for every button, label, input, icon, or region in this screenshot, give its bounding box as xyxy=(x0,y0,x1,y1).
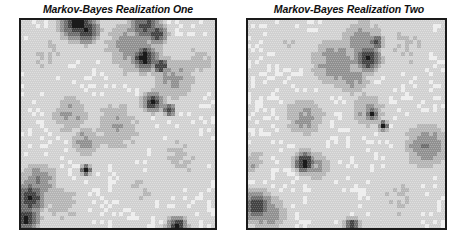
realization-map xyxy=(246,18,447,230)
realization-raster xyxy=(248,20,445,228)
panel-title: Markov-Bayes Realization One xyxy=(12,3,224,15)
panel-realization-two: Markov-Bayes Realization Two xyxy=(232,0,465,240)
panel-title: Markov-Bayes Realization Two xyxy=(238,3,460,15)
realization-raster xyxy=(21,20,215,228)
panel-realization-one: Markov-Bayes Realization One xyxy=(0,0,232,240)
realization-map xyxy=(19,18,217,230)
